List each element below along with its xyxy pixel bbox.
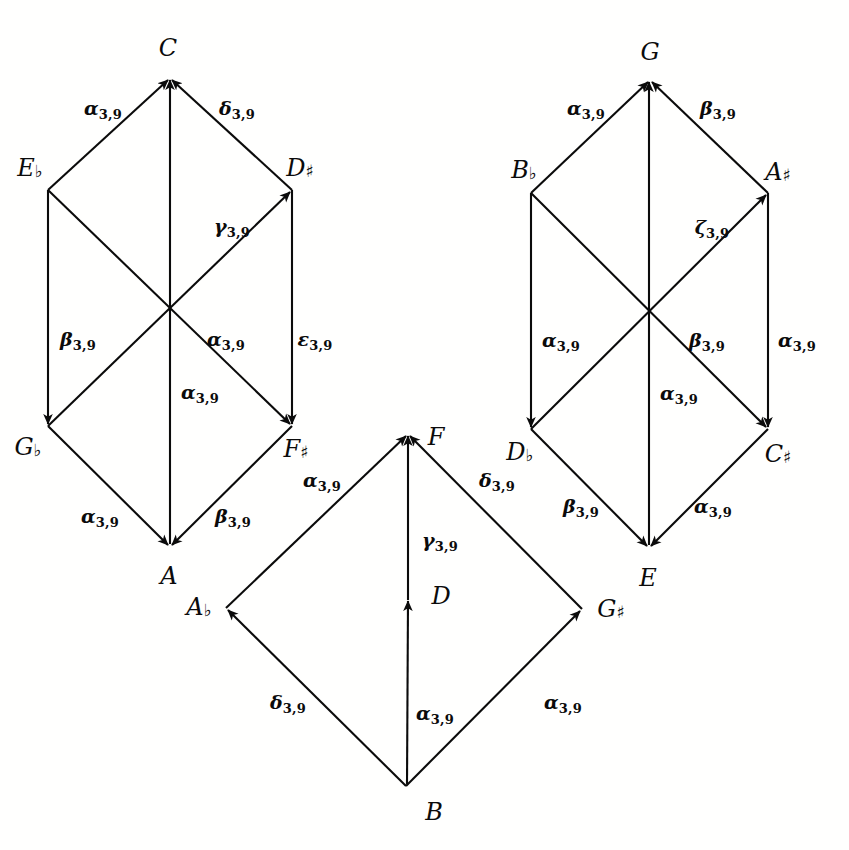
edge-label-diamond-2: γ3,9: [422, 531, 458, 553]
node-label-right-upper-right: A♯: [765, 160, 791, 184]
edge-label-right-5: α3,9: [778, 331, 816, 353]
edge-label-right-0: α3,9: [567, 99, 605, 121]
node-label-diamond-top: F: [428, 425, 445, 449]
node-label-left-upper-left: E♭: [17, 156, 43, 180]
node-label-diamond-right: G♯: [597, 597, 624, 621]
edge-label-right-7: β3,9: [563, 497, 599, 519]
node-label-right-upper-left: B♭: [511, 158, 537, 182]
edge-label-diamond-5: α3,9: [544, 693, 582, 715]
node-label-right-top: G: [640, 40, 659, 64]
edge-label-diamond-3: δ3,9: [270, 693, 306, 715]
edge-diamond-Ab-to-F: [226, 436, 406, 608]
node-label-right-lower-right: C♯: [765, 442, 792, 466]
edge-diamond-B-to-Ab: [228, 610, 406, 786]
edge-label-left-4: α3,9: [207, 330, 245, 352]
edge-label-diamond-0: α3,9: [303, 471, 341, 493]
edge-label-left-5: ε3,9: [298, 330, 333, 352]
edge-diamond-B-to-D: [407, 601, 408, 784]
node-label-left-bottom: A: [160, 564, 177, 588]
edge-label-left-3: β3,9: [60, 330, 96, 352]
edge-label-left-6: α3,9: [181, 383, 219, 405]
node-label-diamond-left: A♭: [186, 595, 211, 619]
edge-right-Csharp-to-E: [651, 429, 768, 546]
node-label-diamond-center: D: [431, 584, 450, 608]
node-label-right-bottom: E: [639, 566, 657, 590]
edge-label-left-8: β3,9: [215, 507, 251, 529]
edge-label-left-7: α3,9: [81, 507, 119, 529]
edge-label-right-8: α3,9: [694, 497, 732, 519]
edge-label-left-2: γ3,9: [214, 217, 250, 239]
edge-label-left-0: α3,9: [84, 99, 122, 121]
edge-label-right-4: β3,9: [689, 331, 725, 353]
edge-label-diamond-4: α3,9: [416, 704, 454, 726]
edge-label-left-1: δ3,9: [219, 99, 255, 121]
edge-label-right-1: β3,9: [700, 99, 736, 121]
edge-label-right-6: α3,9: [660, 384, 698, 406]
node-label-left-top: C: [159, 36, 177, 60]
node-label-right-lower-left: D♭: [506, 440, 533, 464]
edge-left-Eb-to-C: [48, 80, 168, 190]
node-label-left-lower-left: G♭: [14, 435, 41, 459]
edge-label-right-2: ζ3,9: [695, 218, 729, 240]
node-label-diamond-bottom: B: [425, 800, 443, 824]
edge-label-right-3: α3,9: [542, 331, 580, 353]
edge-label-diamond-1: δ3,9: [479, 471, 515, 493]
diagram-canvas: C E♭ D♯ G♭ F♯ A G B♭ A♯ D♭ C♯ E F A♭ G♯ …: [0, 0, 849, 850]
node-label-left-lower-right: F♯: [284, 437, 309, 461]
node-label-left-upper-right: D♯: [286, 156, 313, 180]
edge-right-Db-to-E: [531, 429, 647, 546]
